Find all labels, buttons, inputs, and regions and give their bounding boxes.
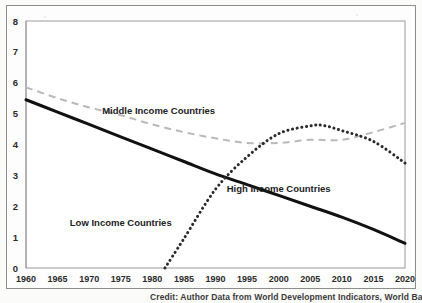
y-tick-label-0: 0 — [13, 263, 18, 274]
plot-background — [26, 21, 405, 268]
series-label-middle-income-countries: Middle Income Countries — [102, 105, 215, 116]
y-tick-label-3: 3 — [13, 170, 18, 181]
x-tick-label-2020: 2020 — [395, 274, 415, 284]
y-axis-ticks: 012345678 — [13, 16, 26, 274]
x-tick-label-1970: 1970 — [79, 274, 99, 284]
x-tick-label-2015: 2015 — [363, 274, 383, 284]
series-label-high-income-countries: High Income Countries — [227, 183, 331, 194]
y-tick-label-1: 1 — [13, 232, 19, 243]
x-tick-label-1995: 1995 — [237, 274, 257, 284]
x-tick-label-1965: 1965 — [48, 274, 68, 284]
x-tick-label-1975: 1975 — [111, 274, 131, 284]
chart-plot: 012345678 196019651970197519801985199019… — [0, 0, 422, 303]
y-tick-label-7: 7 — [13, 46, 18, 57]
figure-container: 012345678 196019651970197519801985199019… — [0, 0, 422, 303]
x-tick-label-1980: 1980 — [142, 274, 162, 284]
credit-text: Credit: Author Data from World Developme… — [150, 292, 422, 302]
y-tick-label-6: 6 — [13, 77, 18, 88]
x-axis-ticks: 1960196519701975198019851990199520002005… — [16, 274, 415, 284]
series-label-low-income-countries: Low Income Countries — [70, 217, 172, 228]
x-tick-label-1990: 1990 — [205, 274, 225, 284]
y-tick-label-2: 2 — [13, 201, 18, 212]
y-tick-label-8: 8 — [13, 16, 18, 27]
x-tick-label-1960: 1960 — [16, 274, 36, 284]
x-tick-label-2005: 2005 — [300, 274, 320, 284]
x-tick-label-1985: 1985 — [174, 274, 194, 284]
y-tick-label-5: 5 — [13, 108, 19, 119]
y-tick-label-4: 4 — [13, 139, 19, 150]
x-tick-label-2010: 2010 — [332, 274, 352, 284]
x-tick-label-2000: 2000 — [269, 274, 289, 284]
